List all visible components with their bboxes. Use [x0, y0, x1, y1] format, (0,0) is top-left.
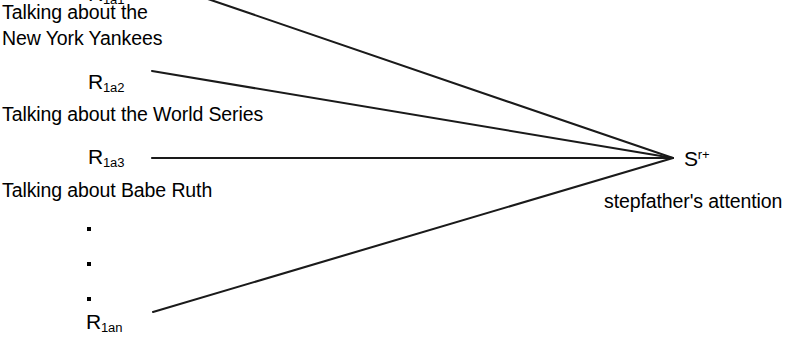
connector-line-r1a1 [205, 0, 673, 158]
ellipsis-dot [87, 262, 91, 266]
response-label-r1a2-subscript: 1a2 [103, 80, 124, 95]
response-description-r1a2-line1: Talking about the World Series [2, 105, 263, 125]
response-label-r1a3: R1a3 [88, 146, 124, 167]
connector-lines-layer [0, 0, 806, 349]
response-label-r1an-subscript: 1an [101, 320, 122, 335]
diagram-canvas: R1a1 Talking about the New York Yankees … [0, 0, 806, 349]
response-label-r1a2: R1a2 [88, 71, 124, 92]
response-description-r1a3-line1: Talking about Babe Ruth [2, 181, 212, 201]
connector-line-r1an [153, 158, 673, 312]
response-label-r1an-base: R [86, 310, 101, 333]
response-label-r1a3-subscript: 1a3 [103, 155, 124, 170]
stimulus-label: Sr+ [684, 148, 710, 169]
response-label-r1a2-base: R [88, 70, 103, 93]
response-label-r1an: R1an [86, 311, 122, 332]
stimulus-description: stepfather's attention [604, 192, 782, 212]
response-description-r1a1-line2: New York Yankees [2, 29, 162, 49]
stimulus-label-base: S [684, 147, 698, 170]
response-description-r1a1-line1: Talking about the [2, 3, 148, 23]
response-label-r1a3-base: R [88, 145, 103, 168]
ellipsis-dot [87, 227, 91, 231]
ellipsis-dot [87, 297, 91, 301]
stimulus-label-superscript: r+ [698, 147, 710, 162]
